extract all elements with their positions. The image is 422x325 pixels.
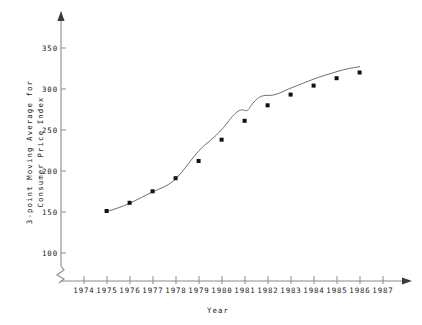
x-tick-label-1987: 1987 [372, 286, 393, 295]
y-axis-ticks [61, 48, 66, 253]
y-tick-label-350: 350 [42, 44, 58, 53]
y-axis-title-line-2: Consumer Price Index [36, 97, 45, 208]
x-tick-label-1986: 1986 [349, 286, 370, 295]
data-point-1985 [335, 76, 339, 80]
series-line-cpi [107, 67, 360, 212]
data-point-1977 [151, 189, 155, 193]
x-tick-label-1977: 1977 [142, 286, 163, 295]
x-axis-title: Year [207, 306, 229, 315]
series-markers-cpi [105, 71, 362, 214]
x-tick-label-1982: 1982 [257, 286, 278, 295]
x-tick-label-1979: 1979 [188, 286, 209, 295]
data-point-1981 [243, 119, 247, 123]
y-tick-label-100: 100 [42, 249, 58, 258]
x-tick-label-1985: 1985 [326, 286, 347, 295]
data-point-1984 [312, 84, 316, 88]
data-point-1978 [174, 176, 178, 180]
x-tick-label-1974: 1974 [73, 286, 94, 295]
x-tick-label-1976: 1976 [119, 286, 140, 295]
data-point-1976 [128, 201, 132, 205]
data-point-1983 [289, 93, 293, 97]
data-point-1975 [105, 209, 109, 213]
data-point-1980 [220, 138, 224, 142]
x-tick-label-1978: 1978 [165, 286, 186, 295]
line-chart: 350 300 250 200 150 100 1974 [0, 0, 422, 325]
x-tick-label-1981: 1981 [234, 286, 255, 295]
y-tick-label-150: 150 [42, 208, 58, 217]
x-axis-tick-labels: 1974 1975 1976 1977 1978 1979 1980 1981 … [73, 286, 393, 295]
data-point-1986 [358, 71, 362, 75]
chart-page: 350 300 250 200 150 100 1974 [0, 0, 422, 325]
y-tick-label-300: 300 [42, 85, 58, 94]
x-axis-arrow-icon [402, 277, 412, 284]
y-axis-arrow-icon [57, 11, 64, 21]
x-tick-label-1975: 1975 [96, 286, 117, 295]
x-axis-ticks [84, 276, 383, 284]
y-axis-title-line-1: 3-point Moving Average for [25, 80, 34, 224]
data-point-1979 [197, 159, 201, 163]
x-tick-label-1980: 1980 [211, 286, 232, 295]
x-tick-label-1984: 1984 [303, 286, 324, 295]
data-point-1982 [266, 103, 270, 107]
x-tick-label-1983: 1983 [280, 286, 301, 295]
